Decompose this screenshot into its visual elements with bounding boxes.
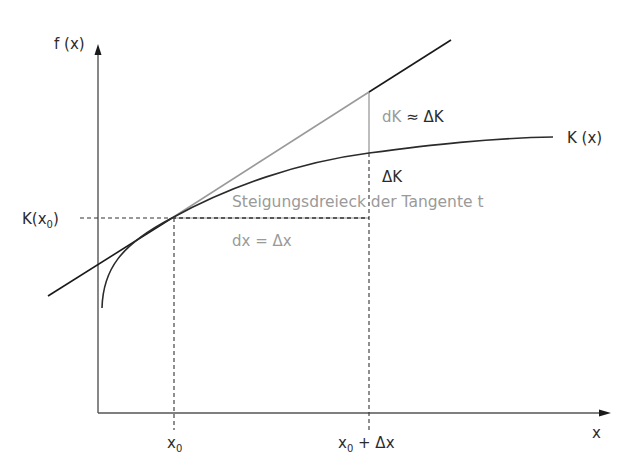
- dx-label: dx = Δx: [232, 232, 292, 250]
- y-axis-arrow-icon: [95, 44, 102, 55]
- k-x0-label: K(x0): [22, 210, 59, 230]
- delta-k-label: ΔK: [382, 168, 403, 186]
- x-axis-arrow-icon: [599, 410, 611, 417]
- x0-label: x0: [167, 434, 182, 454]
- x0-dx-label: x0 + Δx: [338, 434, 395, 454]
- y-axis: [95, 44, 102, 413]
- x-axis: [98, 410, 611, 417]
- slope-triangle-label: Steigungsdreieck der Tangente t: [232, 193, 484, 211]
- cost-curve-k: [102, 137, 553, 308]
- tangent-right-part: [369, 40, 451, 92]
- tangent-left-part: [48, 218, 172, 296]
- x-axis-label: x: [592, 424, 601, 442]
- dk-approx-label: dK ≈ ΔK: [382, 108, 445, 126]
- marginal-cost-tangent-diagram: f (x) x K (x) K(x0) x0 x0 + Δx dK ≈ ΔK Δ…: [0, 0, 640, 476]
- y-axis-label: f (x): [54, 35, 85, 53]
- curve-label: K (x): [567, 129, 602, 147]
